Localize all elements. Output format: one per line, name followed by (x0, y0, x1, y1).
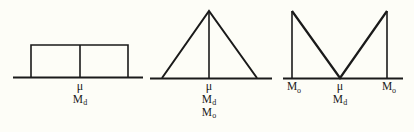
median-label-subscript: d (212, 98, 216, 107)
mean-label: μ (240, 80, 414, 93)
median-label-base: M (73, 93, 83, 105)
median-label-base: M (202, 93, 212, 105)
v-shape-outline (292, 11, 387, 78)
bimodal-distribution-drawing (275, 0, 414, 132)
panel-bimodal-distribution: Mo Mo μ Md (275, 0, 414, 132)
median-label-subscript: d (343, 98, 347, 107)
mode-label-subscript: o (212, 111, 216, 120)
statistics-distribution-figure: μ Md μ Md Mo Mo Mo μ Md (0, 0, 414, 132)
panel-3-center-labels: μ Md (240, 80, 414, 106)
mode-label-base: M (202, 106, 212, 118)
median-label: Md (240, 93, 414, 106)
median-label-subscript: d (83, 98, 87, 107)
median-label-base: M (333, 93, 343, 105)
panel-triangular-distribution: μ Md Mo (150, 0, 275, 132)
